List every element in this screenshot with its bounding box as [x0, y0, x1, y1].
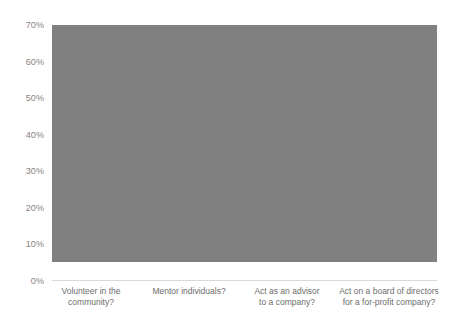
bar-series	[52, 25, 437, 262]
y-axis-tick-label: 0%	[31, 276, 44, 286]
gridline-0	[52, 280, 437, 281]
bar-chart: 70% 60% 50% 40% 30% 20% 10% 0% Volunteer…	[0, 0, 452, 237]
plot-area	[52, 25, 437, 281]
y-axis-tick-label: 50%	[26, 93, 44, 103]
x-axis: Volunteer in the community? Mentor indiv…	[52, 286, 437, 321]
x-axis-category-label: Volunteer in the community?	[36, 286, 146, 308]
x-axis-category-label: Act on a board of directors for a for-pr…	[319, 286, 452, 308]
y-axis-tick-label: 40%	[26, 130, 44, 140]
y-axis-tick-label: 30%	[26, 166, 44, 176]
bar-volunteer-in-the-community	[72, 54, 110, 262]
y-axis-tick-label: 20%	[26, 203, 44, 213]
bar-act-as-an-advisor-to-a-company	[268, 53, 306, 262]
bar-mentor-individuals	[170, 134, 208, 262]
bar-act-on-a-board-of-directors	[370, 134, 408, 262]
y-axis-tick-label: 10%	[26, 239, 44, 249]
y-axis-tick-label: 60%	[26, 57, 44, 67]
y-axis: 70% 60% 50% 40% 30% 20% 10% 0%	[0, 0, 52, 321]
x-axis-category-label: Mentor individuals?	[134, 286, 244, 297]
y-axis-tick-label: 70%	[26, 20, 44, 30]
